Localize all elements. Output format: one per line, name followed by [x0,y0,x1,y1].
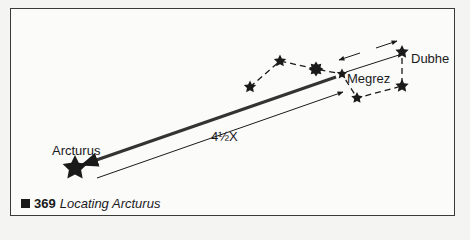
reference-arrow-right [376,41,397,48]
star-icon [351,92,362,103]
figure-number: 369 [34,196,56,211]
caption-bullet-icon [21,199,30,208]
figure-title: Locating Arcturus [60,196,161,211]
arcturus-star-icon [63,155,88,179]
star-icon [309,62,324,77]
star-icon [395,79,408,92]
star-icon [244,81,256,93]
arcturus-label: Arcturus [52,143,100,158]
dubhe-label: Dubhe [411,51,449,66]
megrez-label: Megrez [347,71,390,86]
megrez-star-icon [337,69,347,79]
distance-label: 4½X [211,129,238,144]
pointer-line [82,77,336,165]
reference-arrow-left [339,53,360,60]
figure-caption: 369Locating Arcturus [21,196,160,211]
megrez-dubhe-line [346,55,399,72]
